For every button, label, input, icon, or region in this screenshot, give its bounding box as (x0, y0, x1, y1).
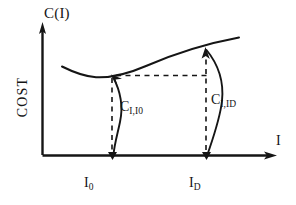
x-axis-label-i: I (276, 134, 281, 148)
chart-canvas (0, 0, 296, 205)
y-axis-function-label: C(I) (44, 6, 70, 21)
cost-curve-figure: C(I) COST I I0 ID CI,I0 CI,ID (0, 0, 296, 205)
annotation-label-cost-i-i0-main: C (120, 99, 129, 114)
x-tick-label-id: ID (189, 176, 201, 193)
annotation-label-cost-i-id-main: C (211, 92, 220, 107)
annotation-label-cost-i-id-subscript-tail: D (229, 99, 236, 109)
annotation-label-cost-i-i0-subscript-tail: 0 (138, 106, 143, 116)
annotation-label-cost-i-id: CI,ID (211, 93, 236, 110)
x-tick-label-id-subscript: D (194, 182, 201, 192)
x-tick-label-i0: I0 (84, 176, 94, 193)
x-tick-label-i0-subscript: 0 (89, 182, 94, 192)
annotation-label-cost-i-i0-subscript: I,I (129, 106, 138, 116)
annotation-label-cost-i-id-subscript: I,I (220, 99, 229, 109)
annotation-label-cost-i-i0: CI,I0 (120, 100, 143, 117)
y-axis-label-cost: COST (16, 65, 30, 129)
